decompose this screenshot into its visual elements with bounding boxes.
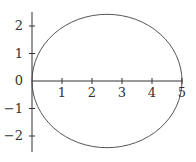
y-tick-label: −1 [4,101,23,116]
y-tick-label: 1 [15,46,23,61]
x-tick-label: 3 [118,85,126,100]
x-tick-label: 2 [88,85,96,100]
x-tick-label: 5 [178,85,186,100]
y-tick-label: 0 [15,73,23,88]
x-tick-label: 4 [148,85,156,100]
x-tick-label: 1 [58,85,66,100]
y-tick-label: 2 [15,18,23,33]
y-tick-label: −2 [4,128,23,143]
circle-chart: 12345210−1−2 [0,0,196,162]
